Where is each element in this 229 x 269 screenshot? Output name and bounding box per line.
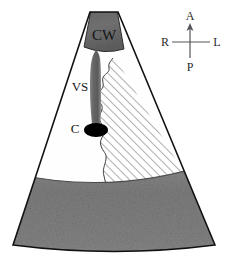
catheter-marker xyxy=(84,123,108,137)
label-chest-wall: CW xyxy=(92,27,117,43)
compass-label-right: R xyxy=(161,35,169,49)
compass-label-left: L xyxy=(213,35,220,49)
orientation-compass: A P R L xyxy=(161,9,221,74)
label-catheter: C xyxy=(71,121,80,136)
compass-label-anterior: A xyxy=(186,9,195,23)
ventricular-septum-region xyxy=(90,50,101,128)
label-ventricular-septum: VS xyxy=(72,79,89,94)
echocardiogram-diagram: CW VS C A P R L xyxy=(0,0,229,269)
compass-label-posterior: P xyxy=(187,60,194,74)
diagram-canvas: CW VS C A P R L xyxy=(0,0,229,269)
